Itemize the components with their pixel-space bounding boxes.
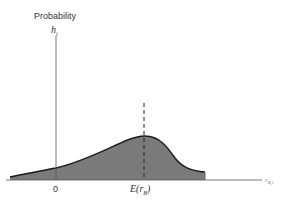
x-axis-symbol: rB,i <box>265 176 273 185</box>
x-tick-expected-return: E(rB) <box>130 183 150 196</box>
y-axis-label: Probability <box>34 11 76 21</box>
x-tick-zero: 0 <box>53 184 58 194</box>
y-axis-symbol: hi <box>51 24 58 37</box>
chart-canvas <box>0 0 288 204</box>
